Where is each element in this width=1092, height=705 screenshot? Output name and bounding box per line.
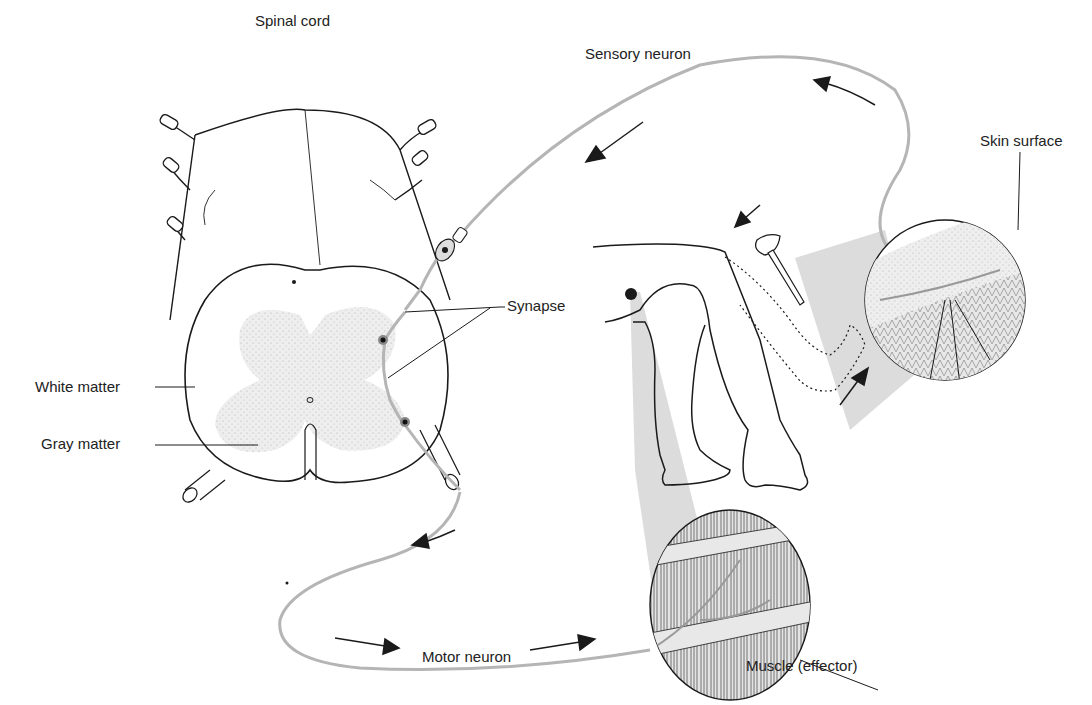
reflex-arc-diagram bbox=[0, 0, 1092, 705]
knee-point bbox=[625, 288, 637, 300]
leg-illustration bbox=[593, 244, 808, 490]
motor-neuron-fiber bbox=[280, 492, 650, 670]
synapse-label: Synapse bbox=[507, 297, 565, 314]
skin-surface-label: Skin surface bbox=[980, 132, 1063, 149]
gray-matter-label: Gray matter bbox=[41, 435, 120, 452]
spinal-cord-label: Spinal cord bbox=[255, 12, 330, 29]
motor-neuron-label: Motor neuron bbox=[422, 648, 511, 665]
muscle-effector-label: Muscle (effector) bbox=[746, 657, 857, 674]
white-matter-label: White matter bbox=[35, 378, 120, 395]
reflex-hammer-icon bbox=[756, 235, 804, 305]
sensory-neuron-label: Sensory neuron bbox=[585, 45, 691, 62]
